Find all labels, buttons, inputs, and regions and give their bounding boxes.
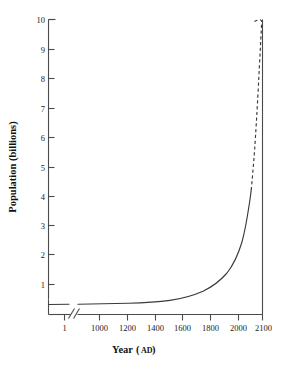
x-tick-label-2100: 2100 bbox=[255, 323, 272, 333]
x-axis-ticks bbox=[65, 315, 263, 321]
y-axis-title: Population (billions) bbox=[7, 121, 19, 213]
y-tick-label-4: 4 bbox=[41, 192, 46, 202]
projected-population-curve bbox=[251, 20, 261, 190]
y-tick-label-9: 9 bbox=[41, 45, 45, 55]
x-tick-label-1400: 1400 bbox=[147, 323, 164, 333]
x-tick-label-1: 1 bbox=[62, 323, 66, 333]
y-tick-label-10: 10 bbox=[37, 15, 46, 25]
x-tick-label-1200: 1200 bbox=[119, 323, 136, 333]
x-axis-title-era: AD bbox=[141, 346, 153, 355]
y-tick-label-2: 2 bbox=[41, 250, 45, 260]
population-chart: 10 9 8 7 6 5 4 3 2 1 1 1000 1200 1 bbox=[0, 0, 299, 374]
y-tick-label-1: 1 bbox=[41, 280, 45, 290]
figure-caption-partial bbox=[2, 367, 292, 374]
x-axis-title-paren-open: ( bbox=[136, 344, 140, 356]
x-axis-title: Year ( AD ) bbox=[112, 344, 156, 356]
y-axis-ticks bbox=[49, 20, 55, 285]
population-growth-figure: 10 9 8 7 6 5 4 3 2 1 1 1000 1200 1 bbox=[0, 0, 299, 374]
axis-frame bbox=[49, 20, 263, 315]
y-tick-label-5: 5 bbox=[41, 163, 45, 173]
y-tick-label-7: 7 bbox=[41, 104, 45, 114]
y-axis-tick-labels: 10 9 8 7 6 5 4 3 2 1 bbox=[37, 15, 46, 290]
y-tick-label-6: 6 bbox=[41, 133, 45, 143]
x-axis-title-paren-close: ) bbox=[152, 344, 156, 356]
x-axis-title-main: Year bbox=[112, 344, 133, 355]
x-tick-label-1600: 1600 bbox=[174, 323, 191, 333]
x-axis-break-icon bbox=[69, 309, 80, 319]
x-tick-label-1000: 1000 bbox=[91, 323, 108, 333]
x-tick-label-1800: 1800 bbox=[202, 323, 219, 333]
x-axis-tick-labels: 1 1000 1200 1400 1600 1800 2000 2100 bbox=[62, 323, 272, 333]
y-tick-label-8: 8 bbox=[41, 74, 45, 84]
historical-population-curve bbox=[78, 190, 251, 304]
y-tick-label-3: 3 bbox=[41, 221, 45, 231]
x-tick-label-2000: 2000 bbox=[230, 323, 247, 333]
